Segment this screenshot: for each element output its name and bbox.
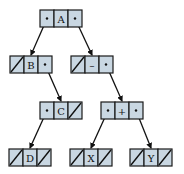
node-label: B — [27, 60, 34, 71]
tree-node-y: Y — [130, 149, 172, 166]
binary-tree-diagram: AB–C+DXY — [0, 0, 184, 174]
pointer-dot — [107, 109, 109, 111]
pointer-dot — [135, 109, 137, 111]
pointer-dot — [74, 17, 76, 19]
node-label: C — [57, 106, 65, 117]
pointer-dot — [46, 109, 48, 111]
node-label: D — [26, 153, 34, 164]
tree-node-plus: + — [101, 102, 143, 119]
node-label: X — [87, 153, 95, 164]
nodes-layer: AB–C+DXY — [9, 10, 172, 166]
pointer-dot — [44, 63, 46, 65]
tree-node-d: D — [9, 149, 51, 166]
node-label: – — [90, 60, 95, 71]
tree-node-x: X — [70, 149, 112, 166]
tree-node-b: B — [10, 56, 52, 73]
node-label: Y — [147, 153, 155, 164]
node-label: A — [56, 14, 65, 25]
pointer-dot — [46, 17, 48, 19]
node-label: + — [118, 106, 126, 117]
edges-layer — [30, 19, 151, 149]
tree-node-minus: – — [71, 56, 113, 73]
pointer-dot — [105, 63, 107, 65]
tree-node-c: C — [40, 102, 82, 119]
tree-node-a: A — [40, 10, 82, 27]
